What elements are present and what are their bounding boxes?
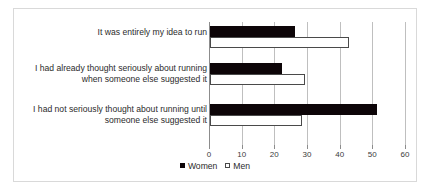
tick-mark-10: [242, 145, 243, 149]
legend-item-women: Women: [180, 161, 217, 171]
legend-label-men: Men: [233, 161, 250, 171]
gridline-60: [405, 22, 406, 145]
tick-label-10: 10: [237, 150, 246, 160]
chart-screenshot: It was entirely my idea to run I had alr…: [0, 0, 433, 195]
bar-men-1: [210, 74, 305, 85]
category-label-1: I had already thought seriously about ru…: [35, 63, 207, 85]
chart-frame: It was entirely my idea to run I had alr…: [13, 8, 417, 182]
legend-item-men: Men: [225, 161, 250, 171]
tick-label-30: 30: [303, 150, 312, 160]
category-label-0: It was entirely my idea to run: [98, 27, 207, 38]
tick-mark-20: [274, 145, 275, 149]
tick-label-0: 0: [207, 150, 211, 160]
tick-label-60: 60: [401, 150, 410, 160]
plot-area: 0 10 20 30 40 50 60: [209, 22, 405, 145]
filled-square-icon: [180, 163, 185, 168]
tick-mark-30: [307, 145, 308, 149]
tick-mark-50: [372, 145, 373, 149]
tick-label-50: 50: [368, 150, 377, 160]
category-axis-labels: It was entirely my idea to run I had alr…: [14, 22, 207, 145]
bar-men-2: [210, 115, 302, 126]
bar-women-2: [210, 104, 377, 115]
bar-men-0: [210, 37, 349, 48]
chart-legend: WomenMen: [14, 161, 416, 172]
tick-mark-60: [405, 145, 406, 149]
tick-label-20: 20: [270, 150, 279, 160]
tick-label-40: 40: [335, 150, 344, 160]
bar-women-0: [210, 26, 295, 37]
bar-women-1: [210, 63, 282, 74]
tick-mark-40: [340, 145, 341, 149]
gridline-50: [372, 22, 373, 145]
tick-mark-0: [209, 145, 210, 149]
category-label-2: I had not seriously thought about runnin…: [33, 104, 207, 126]
open-square-icon: [225, 163, 230, 168]
legend-label-women: Women: [188, 161, 217, 171]
